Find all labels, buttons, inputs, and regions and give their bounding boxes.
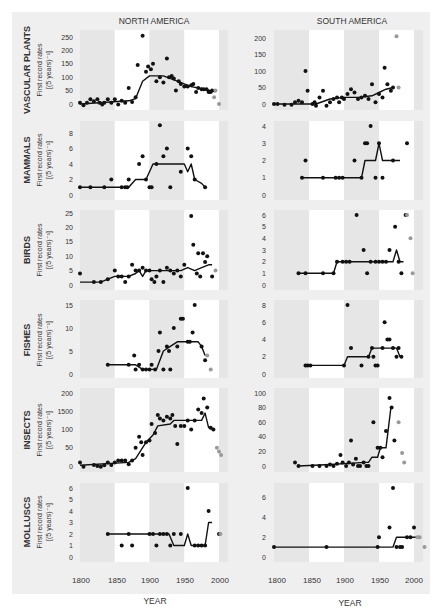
data-point [161, 81, 165, 85]
data-point [337, 100, 341, 104]
data-point [391, 486, 395, 490]
row-title: FISHES [22, 324, 32, 357]
data-point [200, 411, 204, 415]
data-point [371, 420, 375, 424]
data-point [127, 532, 131, 536]
data-point [92, 99, 96, 103]
data-point [193, 178, 197, 182]
data-point [367, 464, 371, 468]
data-point [362, 248, 366, 252]
data-point [120, 274, 124, 278]
data-point [132, 354, 136, 358]
data-point [293, 100, 297, 104]
data-point [134, 269, 138, 273]
data-point [139, 440, 143, 444]
data-point [148, 532, 152, 536]
data-point [134, 446, 138, 450]
data-point [376, 363, 380, 367]
data-point [116, 274, 120, 278]
data-point [152, 280, 156, 284]
data-point [367, 97, 371, 101]
data-point [332, 97, 336, 101]
band-1950-2000 [379, 483, 414, 562]
data-point [409, 535, 413, 539]
data-point [369, 124, 373, 128]
data-point [151, 532, 155, 536]
data-point [388, 338, 392, 342]
row-title: MOLLUSCS [22, 497, 32, 548]
data-point [186, 418, 190, 422]
y-tick: 3 [262, 140, 266, 147]
data-point [321, 89, 325, 93]
data-point-recent [217, 102, 221, 106]
data-point [130, 263, 134, 267]
x-tick-1800-right: 1800 [268, 576, 286, 585]
data-point [304, 69, 308, 73]
data-point [144, 178, 148, 182]
data-point [168, 367, 172, 371]
data-point [189, 428, 193, 432]
y-tick: 3 [69, 519, 73, 526]
data-point [203, 260, 207, 264]
y-tick: 40 [258, 433, 266, 440]
band-1900-1950 [344, 210, 379, 290]
data-point [374, 176, 378, 180]
band-1900-1950 [150, 121, 185, 200]
data-point [170, 413, 174, 417]
data-point [358, 464, 362, 468]
data-point [78, 272, 82, 276]
y-tick: 100 [61, 74, 73, 81]
data-point-recent [205, 354, 209, 358]
data-point-recent [418, 535, 422, 539]
data-point [346, 92, 350, 96]
panel-fishes-south-america: 02468 [262, 300, 423, 378]
data-point [211, 428, 215, 432]
data-point [144, 367, 148, 371]
y-tick: 8 [69, 130, 73, 137]
data-point [137, 162, 141, 166]
data-point [332, 271, 336, 275]
data-point [179, 532, 183, 536]
data-point [165, 415, 169, 419]
data-point [191, 82, 195, 86]
x-axis-title-left: YEAR [143, 596, 166, 606]
data-point [405, 535, 409, 539]
y-tick: 6 [262, 494, 266, 501]
y-tick: 0 [262, 101, 266, 108]
data-point [88, 97, 92, 101]
data-point [130, 459, 134, 463]
data-point [198, 274, 202, 278]
data-point [370, 82, 374, 86]
data-point [360, 363, 364, 367]
data-point [154, 79, 158, 83]
x-tick-2000-right: 2000 [405, 576, 423, 585]
band-1800-1850 [274, 483, 309, 562]
data-point [300, 176, 304, 180]
y-tick: 3 [262, 247, 266, 254]
data-point [205, 254, 209, 258]
y-tick: 5 [69, 267, 73, 274]
data-point [325, 545, 329, 549]
data-point [384, 429, 388, 433]
data-point [332, 464, 336, 468]
band-1900-1950 [344, 388, 379, 472]
data-point [106, 363, 110, 367]
data-point [134, 95, 138, 99]
data-point-recent [218, 532, 222, 536]
data-point [186, 486, 190, 490]
row-title: BIRDS [22, 236, 32, 264]
column-title-south-america: SOUTH AMERICA [317, 16, 388, 26]
y-tick: 5 [262, 223, 266, 230]
data-point [116, 103, 120, 107]
y-tick: 0 [69, 371, 73, 378]
y-tick: 1500 [57, 408, 73, 415]
data-point [82, 103, 86, 107]
data-point [99, 280, 103, 284]
data-point [172, 77, 176, 81]
data-point [365, 271, 369, 275]
data-point [168, 269, 172, 273]
data-point-recent [409, 236, 413, 240]
y-tick: 150 [61, 60, 73, 67]
data-point [113, 460, 117, 464]
data-point [374, 260, 378, 264]
